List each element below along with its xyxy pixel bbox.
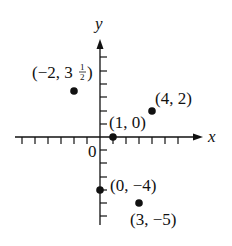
point-0-neg4 — [96, 186, 104, 194]
svg-text:2: 2 — [80, 72, 85, 82]
y-axis-label: y — [93, 14, 103, 33]
label-0-neg4: (0, −4) — [110, 176, 156, 195]
point-labels: (−2, 3 1 2 ) (4, 2) (1, 0) (0, −4) (3, −… — [32, 62, 192, 229]
svg-text:(−2, 3: (−2, 3 — [32, 63, 73, 82]
label-4-2: (4, 2) — [155, 89, 192, 108]
point-1-0 — [109, 133, 117, 141]
label-1-0: (1, 0) — [109, 113, 146, 132]
svg-text:1: 1 — [80, 62, 85, 72]
point-4-2 — [148, 107, 156, 115]
y-axis-arrow-icon — [97, 39, 104, 49]
point-3-neg5 — [135, 199, 143, 207]
svg-text:): ) — [87, 63, 93, 82]
label-3-neg5: (3, −5) — [130, 210, 176, 229]
x-axis-label: x — [207, 127, 216, 146]
point-neg2-3half — [70, 87, 78, 95]
coordinate-plane: x y 0 (−2, 3 1 — [0, 0, 232, 246]
x-axis-arrow-icon — [193, 134, 203, 141]
origin-label: 0 — [88, 142, 97, 161]
label-neg2-3half: (−2, 3 1 2 ) — [32, 62, 93, 82]
